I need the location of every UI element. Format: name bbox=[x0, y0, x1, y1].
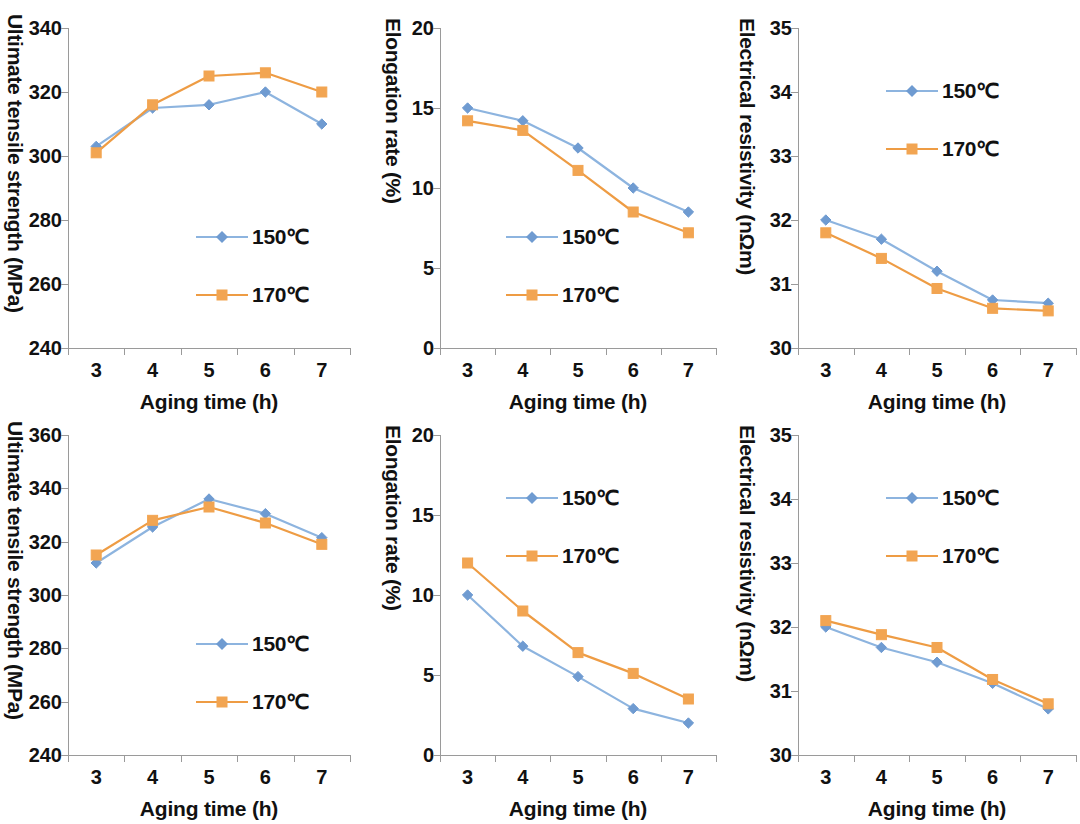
y-axis-tick bbox=[791, 435, 798, 436]
y-axis-tick bbox=[791, 755, 798, 756]
y-axis-tick bbox=[61, 156, 68, 157]
x-axis-tick bbox=[68, 755, 69, 762]
legend-item-170c: 170℃ bbox=[196, 280, 310, 310]
data-point bbox=[628, 703, 638, 713]
y-axis-tick bbox=[433, 755, 440, 756]
y-axis-tick bbox=[61, 28, 68, 29]
y-axis-tick bbox=[791, 348, 798, 349]
y-tick-label: 35 bbox=[770, 18, 792, 38]
x-tick-label: 4 bbox=[876, 360, 887, 380]
y-tick-label: 10 bbox=[412, 585, 434, 605]
y-axis-tick bbox=[61, 702, 68, 703]
x-tick-label: 3 bbox=[91, 360, 102, 380]
series-170c bbox=[91, 68, 327, 158]
y-tick-label: 31 bbox=[770, 681, 792, 701]
x-axis-tick bbox=[350, 755, 351, 762]
data-point bbox=[821, 616, 831, 626]
legend-label: 150℃ bbox=[252, 632, 310, 656]
x-axis-tick bbox=[124, 755, 125, 762]
legend: 150℃170℃ bbox=[506, 222, 620, 310]
legend-item-150c: 150℃ bbox=[886, 76, 1000, 106]
data-point bbox=[683, 228, 693, 238]
x-axis-tick bbox=[440, 755, 441, 762]
diamond-marker-icon bbox=[212, 634, 232, 654]
x-axis-tick bbox=[550, 755, 551, 762]
x-tick-label: 7 bbox=[1043, 767, 1054, 787]
x-axis-line bbox=[440, 755, 716, 756]
legend-marker bbox=[506, 285, 558, 305]
x-tick-label: 6 bbox=[628, 360, 639, 380]
data-point bbox=[148, 100, 158, 110]
data-point bbox=[932, 283, 942, 293]
legend-marker bbox=[886, 488, 938, 508]
square-marker-icon bbox=[522, 546, 542, 566]
y-axis-tick bbox=[433, 108, 440, 109]
y-axis-tick bbox=[433, 675, 440, 676]
x-axis-tick bbox=[68, 348, 69, 355]
x-tick-label: 6 bbox=[987, 360, 998, 380]
x-axis-tick bbox=[1020, 755, 1021, 762]
y-axis-tick bbox=[61, 284, 68, 285]
legend-label: 150℃ bbox=[562, 486, 620, 510]
series-150c bbox=[462, 103, 693, 217]
y-tick-label: 340 bbox=[29, 18, 62, 38]
legend-label: 170℃ bbox=[942, 137, 1000, 161]
diamond-marker-icon bbox=[902, 81, 922, 101]
y-axis-tick bbox=[61, 648, 68, 649]
y-axis-tick-labels: 340320300280260240 bbox=[16, 8, 62, 368]
y-tick-label: 15 bbox=[412, 505, 434, 525]
y-tick-label: 320 bbox=[29, 82, 62, 102]
diamond-marker-icon bbox=[522, 488, 542, 508]
x-axis-tick bbox=[965, 755, 966, 762]
data-point bbox=[1043, 306, 1053, 316]
y-tick-label: 320 bbox=[29, 532, 62, 552]
data-point bbox=[462, 103, 472, 113]
series-150c bbox=[821, 622, 1054, 714]
legend-label: 150℃ bbox=[252, 225, 310, 249]
x-axis-title: Aging time (h) bbox=[798, 390, 1076, 414]
y-tick-label: 15 bbox=[412, 98, 434, 118]
square-marker-icon bbox=[902, 546, 922, 566]
x-axis-tick bbox=[606, 348, 607, 355]
data-point bbox=[148, 515, 158, 525]
legend-marker bbox=[196, 634, 248, 654]
x-axis-title: Aging time (h) bbox=[440, 390, 716, 414]
x-tick-label: 6 bbox=[987, 767, 998, 787]
data-point bbox=[932, 657, 942, 667]
series-line bbox=[468, 121, 689, 233]
x-tick-label: 3 bbox=[820, 767, 831, 787]
diamond-marker-icon bbox=[212, 227, 232, 247]
x-tick-label: 3 bbox=[91, 767, 102, 787]
x-axis-tick bbox=[495, 755, 496, 762]
x-axis-tick bbox=[181, 348, 182, 355]
y-axis-tick bbox=[61, 348, 68, 349]
legend-marker bbox=[506, 227, 558, 247]
y-axis-tick bbox=[61, 220, 68, 221]
y-axis-tick-labels: 353433323130 bbox=[746, 8, 792, 368]
x-axis-tick bbox=[350, 348, 351, 355]
diamond-marker-icon bbox=[522, 227, 542, 247]
x-tick-label: 5 bbox=[931, 767, 942, 787]
square-marker-icon bbox=[212, 285, 232, 305]
x-axis-tick bbox=[716, 348, 717, 355]
y-tick-label: 20 bbox=[412, 18, 434, 38]
y-axis-tick bbox=[61, 595, 68, 596]
legend-label: 170℃ bbox=[562, 283, 620, 307]
x-axis-title: Aging time (h) bbox=[68, 797, 350, 821]
y-axis-tick bbox=[791, 92, 798, 93]
y-axis-tick bbox=[791, 28, 798, 29]
legend-item-170c: 170℃ bbox=[886, 134, 1000, 164]
data-point bbox=[932, 266, 942, 276]
y-tick-label: 30 bbox=[770, 745, 792, 765]
y-tick-label: 33 bbox=[770, 146, 792, 166]
x-axis-title: Aging time (h) bbox=[440, 797, 716, 821]
legend-item-170c: 170℃ bbox=[506, 280, 620, 310]
legend-marker bbox=[196, 285, 248, 305]
x-tick-label: 6 bbox=[260, 767, 271, 787]
x-axis-line bbox=[440, 348, 716, 349]
legend-label: 170℃ bbox=[252, 690, 310, 714]
y-tick-label: 32 bbox=[770, 617, 792, 637]
x-axis-title: Aging time (h) bbox=[68, 390, 350, 414]
legend-label: 150℃ bbox=[942, 486, 1000, 510]
